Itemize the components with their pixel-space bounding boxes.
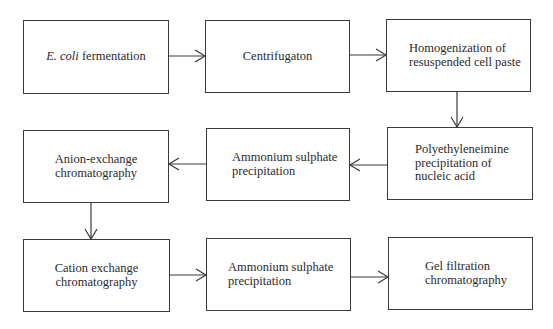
arrow-right-icon — [169, 50, 205, 62]
flow-arrows — [0, 0, 553, 329]
arrow-right-icon — [350, 49, 386, 61]
arrow-down-icon — [451, 92, 463, 127]
arrow-right-icon — [170, 269, 206, 281]
arrow-left-icon — [350, 159, 387, 171]
arrow-down-icon — [85, 203, 97, 239]
arrow-right-icon — [351, 271, 388, 283]
arrow-left-icon — [169, 158, 206, 170]
